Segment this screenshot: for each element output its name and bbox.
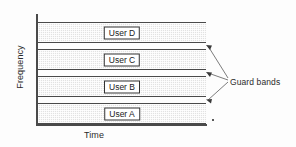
arrowhead-middle (206, 72, 212, 77)
frequency-band-user-c: User C (38, 49, 206, 70)
band-label-user-d: User D (104, 26, 140, 39)
arrowhead-top (206, 45, 212, 50)
frequency-band-user-d: User D (38, 22, 206, 43)
guard-bands-annotation-label: Guard bands (230, 77, 280, 87)
band-label-user-a: User A (104, 107, 140, 120)
x-axis-label: Time (84, 130, 104, 140)
leader-line-top (208, 46, 228, 78)
band-label-user-b: User B (104, 80, 140, 93)
stray-mark (212, 119, 214, 121)
fdm-diagram-figure: Frequency Time User D User C User B User… (0, 0, 296, 147)
band-label-user-c: User C (104, 53, 140, 66)
leader-line-bottom (208, 82, 228, 100)
y-axis-label: Frequency (15, 27, 25, 107)
leader-line-middle (208, 73, 228, 80)
time-axis-line (36, 124, 207, 126)
frequency-band-user-b: User B (38, 76, 206, 97)
arrowhead-bottom (206, 99, 212, 104)
leader-arrowheads (206, 45, 212, 104)
frequency-band-user-a: User A (38, 103, 206, 124)
